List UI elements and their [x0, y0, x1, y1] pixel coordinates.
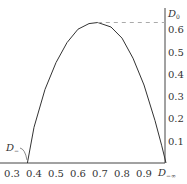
x-tick-label: 0.3 — [4, 168, 20, 179]
label-d-minus-infinity: D−∞ — [157, 167, 176, 179]
y-tick-label: 0.1 — [168, 136, 184, 147]
x-tick-labels: 0.30.40.50.60.70.80.9 — [4, 168, 152, 179]
x-tick-label: 0.6 — [70, 168, 86, 179]
label-d-minus-pointer — [20, 148, 27, 160]
x-tick-label: 0.9 — [136, 168, 152, 179]
y-tick-labels: 0.10.20.30.40.50.6 — [168, 24, 184, 147]
y-tick-label: 0.4 — [168, 69, 184, 80]
x-tick-label: 0.4 — [26, 168, 42, 179]
x-tick-label: 0.5 — [48, 168, 64, 179]
y-tick-label: 0.2 — [168, 113, 184, 124]
y-tick-label: 0.6 — [168, 24, 184, 35]
x-tick-label: 0.7 — [92, 168, 108, 179]
data-curve — [27, 23, 166, 164]
chart: 0.30.40.50.60.70.80.9 0.10.20.30.40.50.6… — [0, 0, 187, 184]
label-d0: D0 — [167, 8, 180, 20]
label-d-minus: D− — [5, 142, 19, 154]
y-tick-label: 0.3 — [168, 91, 184, 102]
y-tick-label: 0.5 — [168, 47, 184, 58]
x-tick-label: 0.8 — [114, 168, 130, 179]
